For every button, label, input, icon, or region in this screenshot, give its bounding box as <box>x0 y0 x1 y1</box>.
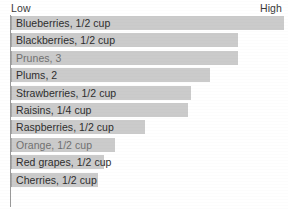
bar-row: Red grapes, 1/2 cup <box>11 154 284 171</box>
bar-row: Orange, 1/2 cup <box>11 137 284 154</box>
bar-label: Strawberries, 1/2 cup <box>16 86 116 100</box>
bar-row: Cherries, 1/2 cup <box>11 172 284 189</box>
axis-label-high: High <box>260 2 282 14</box>
bar-row: Raisins, 1/4 cup <box>11 102 284 119</box>
bar-label: Blackberries, 1/2 cup <box>16 33 115 47</box>
bar-label: Raisins, 1/4 cup <box>16 103 92 117</box>
bar-row: Blueberries, 1/2 cup <box>11 15 284 32</box>
bar-row: Prunes, 3 <box>11 50 284 67</box>
bar-label: Red grapes, 1/2 cup <box>16 155 112 169</box>
bar-label: Raspberries, 1/2 cup <box>16 120 114 134</box>
bar-label: Orange, 1/2 cup <box>16 138 92 152</box>
bar-label: Cherries, 1/2 cup <box>16 173 97 187</box>
bar-label: Blueberries, 1/2 cup <box>16 16 110 30</box>
bar-row: Blackberries, 1/2 cup <box>11 32 284 49</box>
bar-row: Strawberries, 1/2 cup <box>11 85 284 102</box>
bar-label: Plums, 2 <box>16 68 57 82</box>
bar-rows: Blueberries, 1/2 cupBlackberries, 1/2 cu… <box>11 15 284 189</box>
plot-area: Blueberries, 1/2 cupBlackberries, 1/2 cu… <box>10 15 284 207</box>
bar-label: Prunes, 3 <box>16 51 61 65</box>
bar-row: Plums, 2 <box>11 67 284 84</box>
axis-label-low: Low <box>11 2 31 14</box>
axis-scale-labels: Low High <box>11 2 282 15</box>
fruit-antioxidant-bar-chart: Low High Blueberries, 1/2 cupBlackberrie… <box>0 0 288 209</box>
bar-row: Raspberries, 1/2 cup <box>11 119 284 136</box>
